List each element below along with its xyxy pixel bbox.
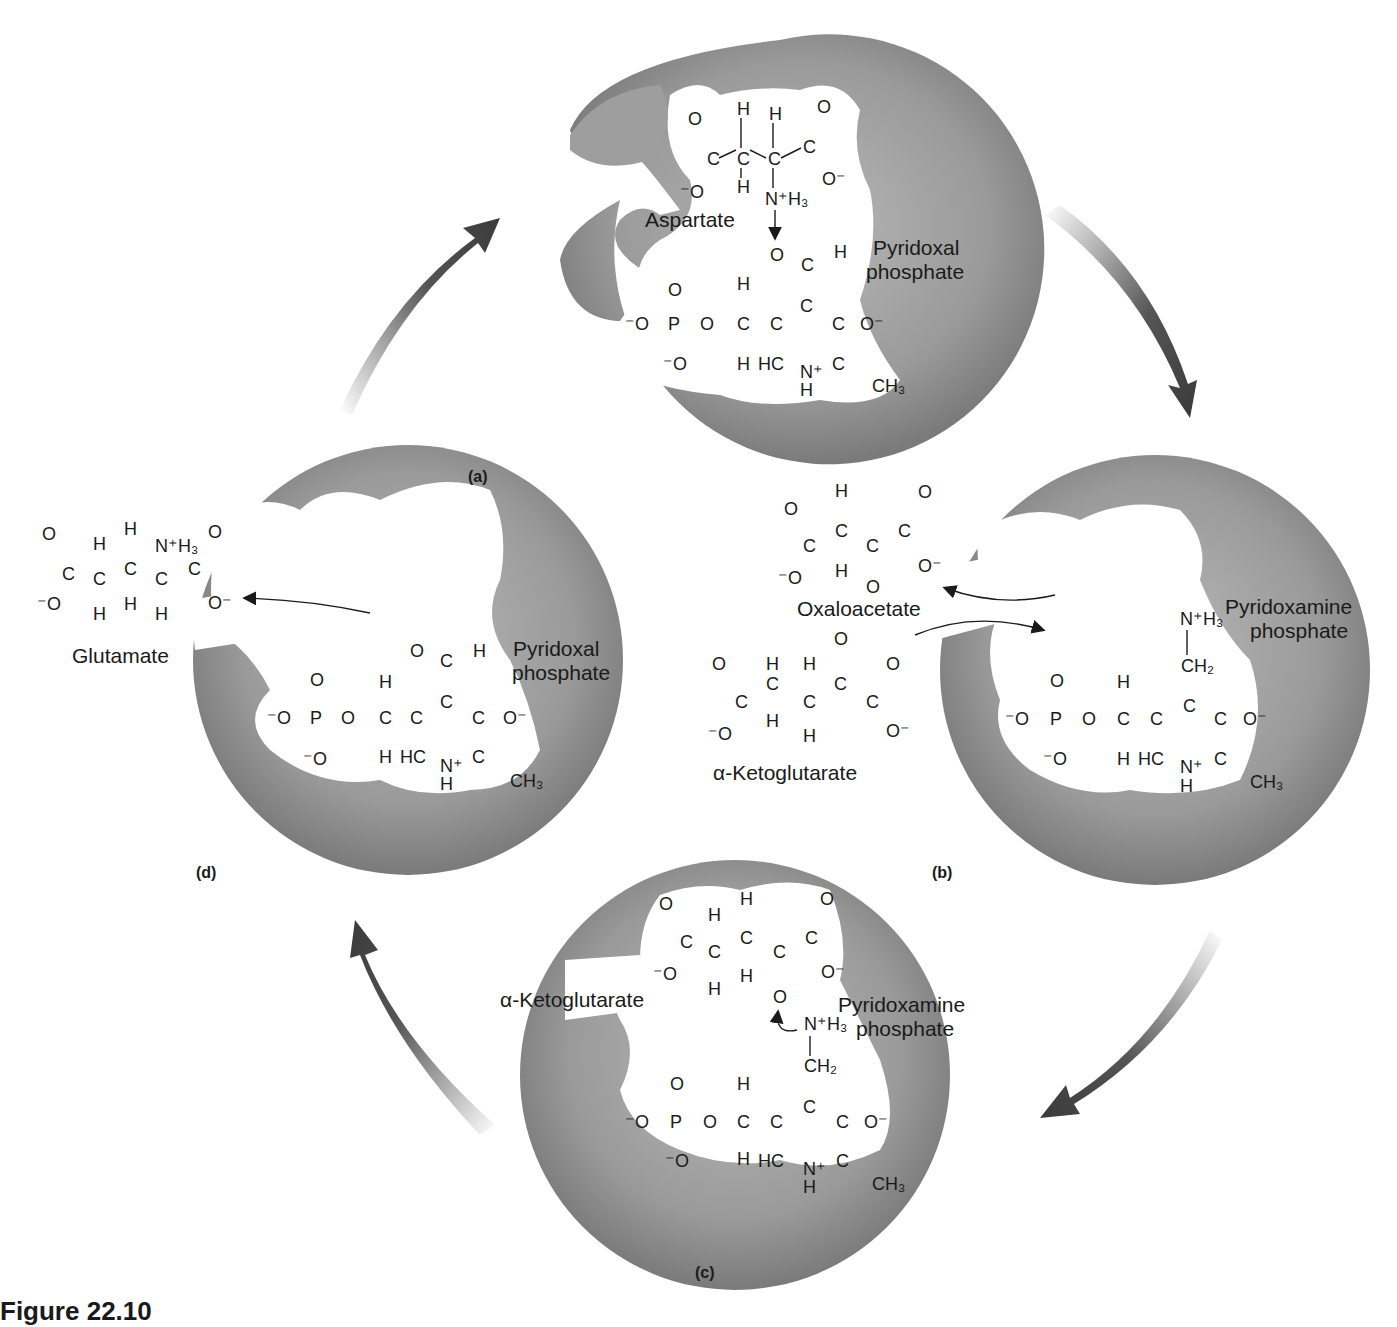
pyridoxamine-label-b-1: Pyridoxamine xyxy=(1225,595,1352,618)
svg-text:H: H xyxy=(708,979,721,999)
svg-text:O: O xyxy=(784,499,798,519)
svg-text:H: H xyxy=(708,905,721,925)
svg-text:O: O xyxy=(341,708,355,728)
pyridoxamine-label-c-1: Pyridoxamine xyxy=(838,993,965,1016)
alpha-ketoglutarate-structure-b: O C ⁻O H C H H C H O C C O O⁻ xyxy=(708,629,910,746)
svg-text:C: C xyxy=(866,536,879,556)
svg-text:O⁻: O⁻ xyxy=(918,556,942,576)
svg-text:HC: HC xyxy=(758,1151,784,1171)
svg-text:C: C xyxy=(1117,709,1130,729)
svg-text:CH₃: CH₃ xyxy=(1250,772,1283,792)
svg-text:⁻O: ⁻O xyxy=(778,568,802,588)
svg-text:O: O xyxy=(700,314,714,334)
svg-text:H: H xyxy=(803,726,816,746)
svg-text:O⁻: O⁻ xyxy=(208,593,232,613)
svg-text:C: C xyxy=(768,149,781,169)
aspartate-label: Aspartate xyxy=(645,208,735,231)
svg-text:C: C xyxy=(866,692,879,712)
svg-text:CH₃: CH₃ xyxy=(872,1174,905,1194)
svg-text:H: H xyxy=(737,1074,750,1094)
svg-text:H: H xyxy=(379,747,392,767)
svg-text:H: H xyxy=(124,594,137,614)
svg-text:C: C xyxy=(707,149,720,169)
svg-text:O: O xyxy=(1050,671,1064,691)
svg-text:⁻O: ⁻O xyxy=(653,964,677,984)
svg-text:H: H xyxy=(93,534,106,554)
oxaloacetate-label: Oxaloacetate xyxy=(797,597,921,620)
svg-text:C: C xyxy=(124,559,137,579)
svg-text:O: O xyxy=(670,1074,684,1094)
svg-text:O: O xyxy=(668,280,682,300)
cycle-arrow-a-to-b xyxy=(1045,205,1197,418)
panel-label-a: (a) xyxy=(468,468,488,485)
svg-text:⁻O: ⁻O xyxy=(665,1151,689,1171)
svg-text:C: C xyxy=(770,1112,783,1132)
svg-text:N⁺H₃: N⁺H₃ xyxy=(155,536,198,556)
svg-text:N⁺H₃: N⁺H₃ xyxy=(804,1014,847,1034)
svg-text:H: H xyxy=(803,654,816,674)
svg-text:C: C xyxy=(834,674,847,694)
svg-text:O: O xyxy=(773,987,787,1007)
svg-text:⁻O: ⁻O xyxy=(663,354,687,374)
svg-text:O: O xyxy=(712,654,726,674)
alpha-ketoglutarate-label-c: α-Ketoglutarate xyxy=(500,988,644,1011)
svg-text:C: C xyxy=(803,692,816,712)
svg-text:P: P xyxy=(670,1112,682,1132)
svg-text:H: H xyxy=(473,641,486,661)
svg-text:HC: HC xyxy=(758,354,784,374)
svg-text:H: H xyxy=(766,711,779,731)
svg-text:H: H xyxy=(835,481,848,501)
svg-text:N⁺: N⁺ xyxy=(803,1159,826,1179)
svg-text:H: H xyxy=(737,1149,750,1169)
pyridoxal-label-d-1: Pyridoxal xyxy=(513,637,599,660)
pyridoxal-label-d-2: phosphate xyxy=(512,661,610,684)
svg-text:C: C xyxy=(93,569,106,589)
enzyme-panel-d xyxy=(190,445,623,875)
svg-text:C: C xyxy=(835,521,848,541)
svg-text:C: C xyxy=(801,255,814,275)
svg-text:O: O xyxy=(688,109,702,129)
svg-text:O: O xyxy=(1082,709,1096,729)
svg-text:O⁻: O⁻ xyxy=(864,1112,888,1132)
svg-text:⁻O: ⁻O xyxy=(303,749,327,769)
svg-text:C: C xyxy=(737,314,750,334)
svg-text:H: H xyxy=(834,242,847,262)
pyridoxamine-label-b-2: phosphate xyxy=(1250,619,1348,642)
svg-text:H: H xyxy=(737,177,750,197)
svg-text:P: P xyxy=(1050,709,1062,729)
svg-text:O: O xyxy=(770,245,784,265)
svg-text:⁻O: ⁻O xyxy=(267,708,291,728)
svg-text:N⁺: N⁺ xyxy=(1180,757,1203,777)
svg-text:O: O xyxy=(310,670,324,690)
svg-text:C: C xyxy=(708,942,721,962)
enzyme-panel-b xyxy=(930,455,1370,885)
svg-text:C: C xyxy=(1183,696,1196,716)
svg-text:C: C xyxy=(803,1097,816,1117)
svg-text:C: C xyxy=(379,708,392,728)
svg-text:C: C xyxy=(770,314,783,334)
enzyme-panel-c xyxy=(520,860,950,1290)
svg-text:C: C xyxy=(440,651,453,671)
svg-text:N⁺: N⁺ xyxy=(440,756,463,776)
svg-text:C: C xyxy=(188,559,201,579)
svg-text:O: O xyxy=(866,577,880,597)
svg-text:C: C xyxy=(832,314,845,334)
svg-text:P: P xyxy=(668,314,680,334)
svg-text:⁻O: ⁻O xyxy=(680,182,704,202)
svg-text:C: C xyxy=(805,928,818,948)
svg-text:C: C xyxy=(680,932,693,952)
svg-text:C: C xyxy=(836,1112,849,1132)
panel-label-d: (d) xyxy=(196,864,216,881)
svg-text:C: C xyxy=(803,137,816,157)
svg-text:⁻O: ⁻O xyxy=(37,594,61,614)
svg-text:C: C xyxy=(836,1151,849,1171)
svg-text:O: O xyxy=(820,889,834,909)
svg-text:C: C xyxy=(898,521,911,541)
svg-text:H: H xyxy=(769,104,782,124)
svg-text:CH₂: CH₂ xyxy=(1181,656,1214,676)
svg-text:N⁺H₃: N⁺H₃ xyxy=(765,189,808,209)
svg-text:C: C xyxy=(1214,749,1227,769)
svg-text:N⁺H₃: N⁺H₃ xyxy=(1180,609,1223,629)
figure-caption: Figure 22.10 xyxy=(0,1296,152,1327)
